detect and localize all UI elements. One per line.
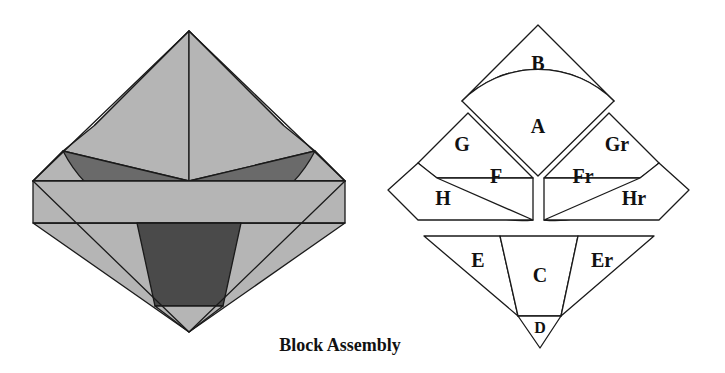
- exploded-label-E: E: [471, 249, 484, 271]
- exploded-block-diamond: B A G F H Gr: [388, 25, 689, 348]
- assembled-lower-band: [33, 181, 345, 223]
- assembled-piece-D: [155, 306, 223, 332]
- exploded-label-Er: Er: [591, 249, 613, 271]
- figure-root: B A G F H Gr: [0, 0, 725, 373]
- exploded-label-D: D: [534, 319, 546, 336]
- figure-caption: Block Assembly: [279, 335, 401, 355]
- exploded-bottom-group: E C Er D: [424, 236, 654, 348]
- exploded-label-Hr: Hr: [622, 187, 647, 209]
- exploded-label-Gr: Gr: [605, 133, 630, 155]
- assembled-block-diamond: [33, 31, 345, 332]
- assembled-piece-C: [137, 223, 241, 306]
- exploded-label-H: H: [435, 187, 451, 209]
- exploded-label-A: A: [531, 115, 546, 137]
- block-assembly-figure: B A G F H Gr: [0, 0, 725, 373]
- exploded-label-G: G: [454, 133, 470, 155]
- exploded-label-F: F: [490, 165, 502, 187]
- exploded-label-Fr: Fr: [572, 165, 593, 187]
- exploded-label-C: C: [533, 264, 547, 286]
